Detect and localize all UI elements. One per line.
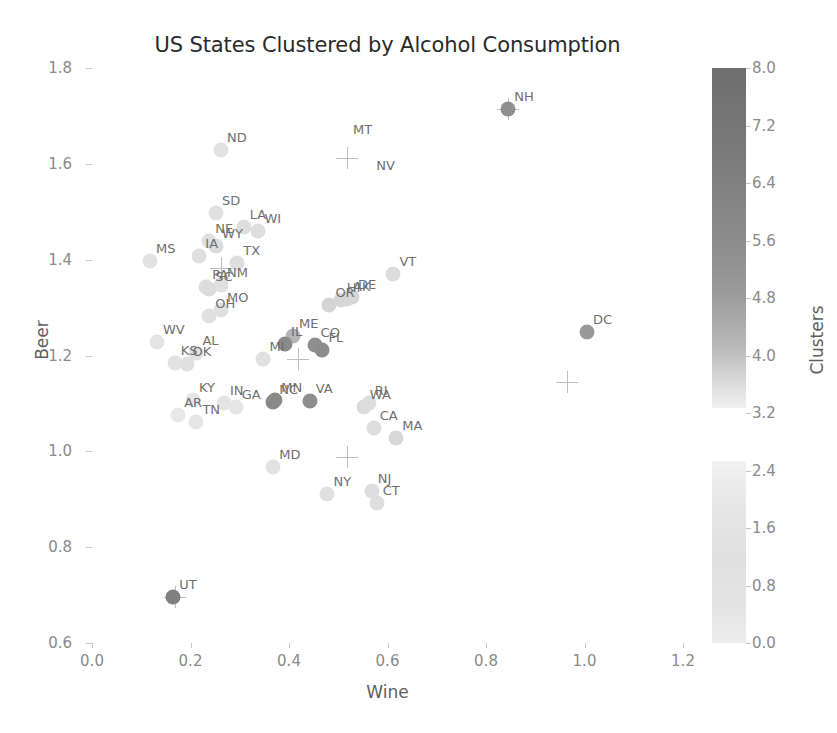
scatter-point[interactable] — [192, 248, 207, 263]
scatter-point-label: NV — [376, 157, 395, 172]
scatter-point[interactable] — [202, 309, 217, 324]
x-tick-mark — [388, 643, 389, 648]
colorbar-label: Clusters — [807, 280, 827, 400]
colorbar-gradient-upper — [712, 68, 746, 408]
cluster-centroid-marker — [336, 147, 358, 169]
scatter-point-label: OH — [215, 296, 235, 311]
scatter-point-label: MS — [156, 240, 175, 255]
scatter-point[interactable] — [228, 400, 243, 415]
scatter-point[interactable] — [256, 352, 271, 367]
y-tick-mark — [86, 164, 92, 165]
x-tick-label: 0.6 — [376, 652, 400, 670]
scatter-point[interactable] — [579, 324, 594, 339]
plot-area: NHNDSDLAWINEWYIAMSTXNMPASCVTMOOHDEAKHIOR… — [92, 68, 683, 643]
scatter-point-label: CT — [383, 483, 400, 498]
scatter-point-label: MA — [402, 417, 422, 432]
x-tick-mark — [289, 643, 290, 648]
scatter-point-label: ND — [227, 130, 247, 145]
scatter-point-label: VA — [316, 381, 333, 396]
colorbar-tick-label: 2.4 — [752, 462, 776, 480]
scatter-point[interactable] — [251, 223, 266, 238]
scatter-point-label: NH — [514, 88, 534, 103]
scatter-point[interactable] — [179, 357, 194, 372]
colorbar-tick-label: 0.8 — [752, 577, 776, 595]
x-tick-label: 1.2 — [671, 652, 695, 670]
scatter-point-label: SC — [215, 269, 232, 284]
scatter-point-label: OK — [193, 344, 212, 359]
colorbar-tick-label: 3.2 — [752, 404, 776, 422]
scatter-point[interactable] — [302, 394, 317, 409]
y-tick-label: 1.8 — [48, 59, 72, 77]
colorbar-tick-label: 4.0 — [752, 347, 776, 365]
colorbar-tick-mark — [746, 413, 751, 414]
cluster-centroid-marker — [336, 446, 358, 468]
scatter-point[interactable] — [209, 205, 224, 220]
scatter-point-label: CA — [380, 408, 398, 423]
x-tick-label: 0.2 — [179, 652, 203, 670]
colorbar-tick-label: 1.6 — [752, 519, 776, 537]
colorbar-tick-mark — [746, 183, 751, 184]
colorbar-tick-mark — [746, 68, 751, 69]
x-tick-label: 1.0 — [573, 652, 597, 670]
scatter-point-label: AR — [184, 395, 202, 410]
scatter-point[interactable] — [202, 282, 217, 297]
colorbar-tick-mark — [746, 356, 751, 357]
colorbar-tick-label: 6.4 — [752, 174, 776, 192]
y-tick-label: 1.0 — [48, 442, 72, 460]
colorbar-tick-mark — [746, 471, 751, 472]
colorbar-tick-label: 4.8 — [752, 289, 776, 307]
scatter-point[interactable] — [268, 392, 283, 407]
scatter-point[interactable] — [369, 496, 384, 511]
scatter-point-label: WI — [264, 210, 281, 225]
scatter-point[interactable] — [366, 421, 381, 436]
y-tick-label: 0.8 — [48, 538, 72, 556]
y-tick-mark — [86, 451, 92, 452]
x-tick-mark — [92, 643, 93, 648]
scatter-point[interactable] — [386, 267, 401, 282]
scatter-point[interactable] — [322, 298, 337, 313]
colorbar-tick-label: 0.0 — [752, 634, 776, 652]
colorbar-tick-mark — [746, 241, 751, 242]
scatter-point-label: OR — [335, 285, 354, 300]
colorbar-tick-label: 7.2 — [752, 117, 776, 135]
page-title: US States Clustered by Alcohol Consumpti… — [92, 33, 683, 57]
y-tick-mark — [86, 260, 92, 261]
y-axis-label: Beer — [32, 280, 52, 400]
x-tick-label: 0.4 — [277, 652, 301, 670]
scatter-point[interactable] — [389, 430, 404, 445]
scatter-point[interactable] — [320, 486, 335, 501]
scatter-point-label: FL — [328, 329, 343, 344]
scatter-point[interactable] — [189, 414, 204, 429]
colorbar — [712, 68, 746, 643]
x-tick-label: 0.8 — [474, 652, 498, 670]
cluster-centroid-marker — [556, 371, 578, 393]
scatter-point-label: MN — [281, 379, 302, 394]
scatter-point[interactable] — [356, 400, 371, 415]
colorbar-tick-label: 8.0 — [752, 59, 776, 77]
scatter-point-label: SD — [222, 192, 240, 207]
scatter-point-label: KY — [199, 379, 215, 394]
y-tick-label: 1.6 — [48, 155, 72, 173]
scatter-point[interactable] — [266, 459, 281, 474]
scatter-point[interactable] — [501, 101, 516, 116]
scatter-point[interactable] — [143, 253, 158, 268]
cluster-centroid-marker — [287, 348, 309, 370]
scatter-point-label: IA — [205, 235, 218, 250]
scatter-point[interactable] — [150, 335, 165, 350]
scatter-point[interactable] — [171, 408, 186, 423]
scatter-point[interactable] — [214, 143, 229, 158]
colorbar-gradient-lower — [712, 461, 746, 643]
scatter-point-label: DC — [593, 311, 612, 326]
scatter-figure: US States Clustered by Alcohol Consumpti… — [0, 0, 837, 733]
colorbar-tick-mark — [746, 298, 751, 299]
y-tick-mark — [86, 547, 92, 548]
scatter-point-label: NY — [333, 473, 351, 488]
scatter-point-label: MT — [353, 122, 372, 137]
scatter-point[interactable] — [315, 342, 330, 357]
y-tick-label: 0.6 — [48, 634, 72, 652]
scatter-point-label: WY — [222, 226, 243, 241]
scatter-point[interactable] — [166, 590, 181, 605]
x-tick-mark — [585, 643, 586, 648]
colorbar-tick-label: 5.6 — [752, 232, 776, 250]
scatter-point-label: WA — [370, 387, 391, 402]
